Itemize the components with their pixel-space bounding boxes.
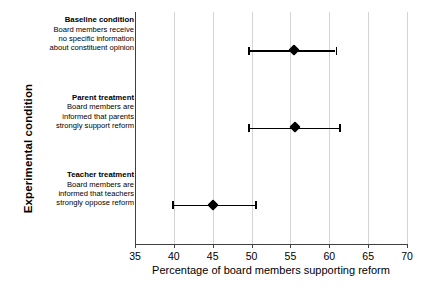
y-axis-category-label: Baseline conditionBoard members receiven…: [22, 15, 134, 52]
category-subtitle-line: informed that teachers: [22, 189, 134, 198]
y-axis-line: [135, 12, 136, 244]
category-title: Teacher treatment: [22, 170, 134, 180]
confidence-interval-cap-high: [339, 124, 340, 132]
category-subtitle-line: strongly oppose reform: [22, 198, 134, 207]
x-tick-mark-55: [290, 244, 291, 248]
x-axis-title: Percentage of board members supporting r…: [135, 264, 407, 276]
x-tick-mark-50: [252, 244, 253, 248]
point-marker: [288, 44, 299, 55]
confidence-interval-cap-low: [248, 47, 249, 55]
x-tick-label-65: 65: [362, 250, 374, 262]
x-tick-label-35: 35: [129, 250, 141, 262]
x-tick-mark-45: [213, 244, 214, 248]
x-tick-label-40: 40: [168, 250, 180, 262]
x-axis-line: [135, 244, 407, 245]
x-tick-mark-65: [368, 244, 369, 248]
y-axis-category-label: Teacher treatmentBoard members areinform…: [22, 170, 134, 207]
y-axis-tick-labels: Baseline conditionBoard members receiven…: [22, 0, 134, 297]
x-tick-mark-40: [174, 244, 175, 248]
confidence-interval-cap-high: [255, 201, 256, 209]
x-tick-label-50: 50: [246, 250, 258, 262]
category-subtitle-line: about constituent opinion: [22, 43, 134, 52]
x-tick-mark-70: [407, 244, 408, 248]
data-point-row: [135, 122, 407, 134]
category-subtitle-line: strongly support reform: [22, 121, 134, 130]
confidence-interval-cap-low: [172, 201, 173, 209]
chart-figure: Experimental condition Baseline conditio…: [0, 0, 427, 297]
data-point-row: [135, 199, 407, 211]
confidence-interval-cap-low: [248, 124, 249, 132]
confidence-interval-cap-high: [336, 47, 337, 55]
x-tick-label-45: 45: [207, 250, 219, 262]
x-tick-label-60: 60: [323, 250, 335, 262]
gridline-70: [407, 12, 408, 244]
category-subtitle-line: Board members receive: [22, 25, 134, 34]
point-marker: [289, 122, 300, 133]
x-tick-label-55: 55: [285, 250, 297, 262]
x-tick-mark-60: [329, 244, 330, 248]
data-point-row: [135, 45, 407, 57]
category-subtitle-line: informed that parents: [22, 112, 134, 121]
x-tick-mark-35: [135, 244, 136, 248]
y-axis-category-label: Parent treatmentBoard members areinforme…: [22, 93, 134, 130]
category-subtitle-line: Board members are: [22, 180, 134, 189]
plot-area: 3540455055606570: [135, 12, 407, 244]
category-subtitle-line: Board members are: [22, 102, 134, 111]
x-tick-label-70: 70: [401, 250, 413, 262]
category-subtitle-line: no specific information: [22, 34, 134, 43]
category-title: Parent treatment: [22, 93, 134, 103]
point-marker: [207, 199, 218, 210]
category-title: Baseline condition: [22, 15, 134, 25]
